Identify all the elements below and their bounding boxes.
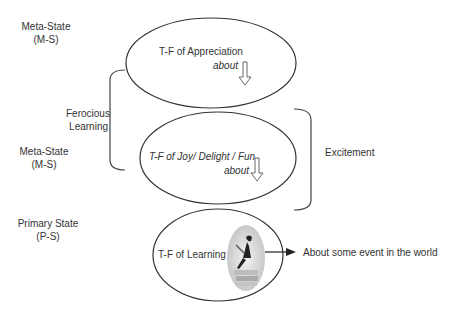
learner-on-books-image bbox=[227, 225, 265, 291]
outcome-label: About some event in the world bbox=[303, 246, 438, 259]
appreciation-title: T-F of Appreciation bbox=[159, 45, 243, 58]
meta-state-label-1: Meta-State (M-S) bbox=[16, 20, 76, 46]
meta-state-label-2: Meta-State (M-S) bbox=[14, 145, 74, 171]
label-line: (M-S) bbox=[14, 158, 74, 171]
label-line: Meta-State bbox=[14, 145, 74, 158]
arrowhead-icon bbox=[286, 248, 296, 256]
label-line: Learning bbox=[66, 120, 108, 133]
joy-about: about bbox=[224, 164, 249, 177]
joy-title: T-F of Joy/ Delight / Fun bbox=[149, 150, 255, 163]
learning-title: T-F of Learning bbox=[158, 248, 226, 261]
down-arrow-icon bbox=[239, 62, 251, 85]
left-bracket bbox=[110, 70, 125, 170]
label-line: (P-S) bbox=[8, 230, 88, 243]
primary-state-label: Primary State (P-S) bbox=[8, 217, 88, 243]
ellipse-appreciation bbox=[126, 18, 296, 108]
label-line: Primary State bbox=[8, 217, 88, 230]
label-line: Meta-State bbox=[16, 20, 76, 33]
label-line: (M-S) bbox=[16, 33, 76, 46]
appreciation-about: about bbox=[213, 59, 238, 72]
ferocious-learning-label: Ferocious Learning bbox=[66, 107, 108, 133]
label-line: Ferocious bbox=[66, 107, 108, 120]
excitement-label: Excitement bbox=[325, 146, 374, 159]
